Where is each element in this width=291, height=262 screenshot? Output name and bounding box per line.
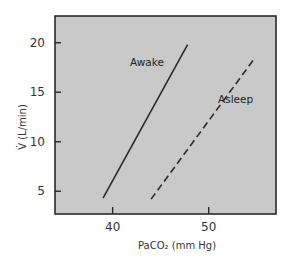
x-axis-label: PaCO₂ (mm Hg) — [138, 240, 216, 251]
asleep-series-label: Asleep — [218, 93, 253, 105]
y-tick-label: 20 — [30, 36, 45, 50]
x-tick-label: 50 — [201, 220, 216, 234]
plot-area — [55, 16, 276, 214]
x-tick-label: 40 — [105, 220, 120, 234]
y-tick-label: 10 — [30, 135, 45, 149]
y-tick-label: 15 — [30, 85, 45, 99]
ventilation-vs-paco2-chart: 5101520 4050 Awake Asleep PaCO₂ (mm Hg) … — [0, 0, 291, 262]
y-tick-label: 5 — [37, 184, 45, 198]
y-axis-label: V̇ (L/min) — [16, 104, 28, 150]
awake-series-label: Awake — [130, 56, 164, 68]
